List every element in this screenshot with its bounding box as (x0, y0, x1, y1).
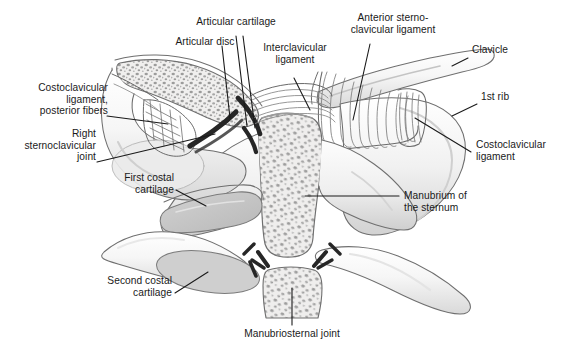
label-manubriosternal-joint: Manubriosternal joint (227, 328, 357, 340)
label-right-sternoclavicular-joint: Right sternoclavicular joint (6, 128, 96, 163)
label-costoclavicular-ligament-posterior-fibers: Costoclavicular ligament, posterior fibe… (8, 82, 108, 117)
manubrium-structure (258, 114, 322, 258)
label-articular-disc: Articular disc (150, 36, 260, 48)
leader-interclavicular-ligament (294, 78, 310, 110)
label-first-rib: 1st rib (481, 91, 551, 103)
leader-first-rib (452, 104, 477, 116)
label-clavicle: Clavicle (472, 44, 552, 56)
label-first-costal-cartilage: First costal cartilage (96, 172, 174, 195)
label-manubrium-of-the-sternum: Manubrium of the sternum (404, 190, 514, 213)
label-second-costal-cartilage: Second costal cartilage (66, 275, 172, 298)
label-articular-cartilage: Articular cartilage (176, 16, 296, 28)
second-costal-cartilage-right (315, 247, 470, 314)
label-costoclavicular-ligament: Costoclavicular ligament (476, 139, 564, 162)
anatomical-figure: Articular cartilage Articular disc Inter… (0, 0, 565, 355)
label-interclavicular-ligament: Interclavicular ligament (245, 42, 345, 65)
label-anterior-sternoclavicular-ligament: Anterior sterno- clavicular ligament (333, 12, 453, 35)
